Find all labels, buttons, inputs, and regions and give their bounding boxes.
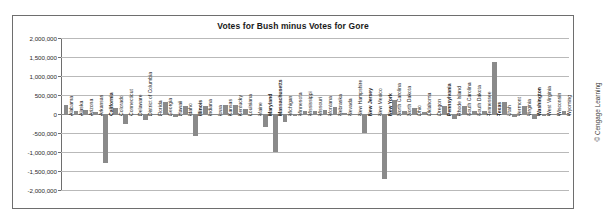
y-tick-label: -1,500,000 xyxy=(27,168,57,175)
category-label: Arkansas xyxy=(99,95,104,116)
category-label: Maryland xyxy=(268,94,273,116)
category-label: Illinois xyxy=(198,100,203,116)
category-label: Tennessee xyxy=(487,91,492,116)
category-label: Arizona xyxy=(89,99,94,116)
plot-area: 2,000,0001,500,0001,000,000500,0000-500,… xyxy=(61,38,569,190)
gridline xyxy=(61,190,569,191)
copyright-region: © Cengage Learning xyxy=(584,0,610,224)
category-label: Connecticut xyxy=(129,89,134,116)
bar xyxy=(382,114,387,179)
category-label: West Virginia xyxy=(547,86,552,116)
category-label: Alaska xyxy=(79,101,84,116)
category-label: Virginia xyxy=(527,99,532,116)
category-label: Oregon xyxy=(437,99,442,116)
category-label: Vermont xyxy=(517,97,522,116)
category-label: Ohio xyxy=(417,105,422,116)
y-tick-label: 0 xyxy=(54,111,57,118)
category-label: Indiana xyxy=(208,99,213,116)
category-label: Georgia xyxy=(168,98,173,116)
category-label: Kansas xyxy=(228,99,233,116)
category-label: South Dakota xyxy=(477,85,482,116)
category-label: Mississippi xyxy=(308,91,313,116)
category-label: Missouri xyxy=(318,97,323,116)
category-label: California xyxy=(109,93,114,117)
category-label: Florida xyxy=(158,100,163,116)
category-label: South Carolina xyxy=(467,82,472,116)
category-label: New York xyxy=(388,93,393,116)
y-tick-label: -500,000 xyxy=(33,130,57,137)
category-label: Nebraska xyxy=(338,94,343,116)
category-label: District of Columbia xyxy=(148,72,153,116)
category-label: New Mexico xyxy=(378,88,383,116)
category-label: Delaware xyxy=(138,94,143,116)
category-label: Iowa xyxy=(218,105,223,116)
category-label: Pennsylvania xyxy=(447,83,452,116)
y-tick-label: 1,000,000 xyxy=(29,73,57,80)
category-label: Wyoming xyxy=(567,95,572,116)
category-label: Alabama xyxy=(69,96,74,116)
category-label: Wisconsin xyxy=(557,93,562,116)
y-tick-label: 500,000 xyxy=(35,92,57,99)
bar xyxy=(362,114,367,133)
bar xyxy=(193,114,198,136)
category-label: Idaho xyxy=(188,103,193,116)
category-label: Washington xyxy=(537,87,542,116)
y-tick-label: 2,000,000 xyxy=(29,35,57,42)
y-tick-label: -1,000,000 xyxy=(27,149,57,156)
category-label: Oklahoma xyxy=(427,93,432,116)
category-label: Louisiana xyxy=(248,94,253,116)
category-label: Michigan xyxy=(288,96,293,116)
category-label: Maine xyxy=(258,102,263,116)
y-tick-mark xyxy=(58,190,61,191)
category-label: New Hampshire xyxy=(358,80,363,116)
category-label: Kentucky xyxy=(238,95,243,116)
y-tick-label: 1,500,000 xyxy=(29,54,57,61)
category-label: North Carolina xyxy=(397,83,402,116)
bar xyxy=(273,114,278,152)
category-label: Texas xyxy=(497,102,502,116)
category-label: Colorado xyxy=(119,95,124,116)
category-label: New Jersey xyxy=(368,88,373,116)
category-label: Utah xyxy=(507,105,512,116)
category-label: Montana xyxy=(328,96,333,116)
watermark-mark xyxy=(26,1,40,10)
category-label: Hawaii xyxy=(178,101,183,116)
bar xyxy=(103,114,108,163)
category-label: Nevada xyxy=(348,98,353,116)
category-label: Rhode Island xyxy=(457,86,462,116)
category-label: Minnesota xyxy=(298,92,303,116)
chart-title: Votes for Bush minus Votes for Gore xyxy=(13,21,573,31)
chart-figure: Votes for Bush minus Votes for Gore 2,00… xyxy=(0,0,612,224)
chart-frame: Votes for Bush minus Votes for Gore 2,00… xyxy=(12,15,574,209)
category-label: Massachusetts xyxy=(278,79,283,116)
category-label: North Dakota xyxy=(407,86,412,116)
y-tick-label: -2,000,000 xyxy=(27,187,57,194)
copyright-text: © Cengage Learning xyxy=(594,82,601,141)
